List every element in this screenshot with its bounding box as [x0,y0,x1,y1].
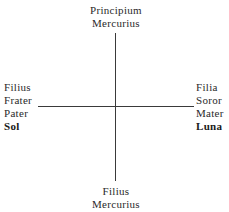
right-label: Filia Soror Mater Luna [196,81,224,133]
bottom-label: Filius Mercurius [72,185,160,211]
right-label-line-3: Mater [196,107,224,120]
top-label: Principium Mercurius [72,4,160,30]
vertical-axis-line [115,33,116,181]
bottom-label-line-2: Mercurius [72,198,160,211]
top-label-line-1: Principium [72,4,160,17]
left-label-line-4: Sol [4,120,32,133]
right-label-line-2: Soror [196,94,224,107]
left-label: Filius Frater Pater Sol [4,81,32,133]
left-label-line-3: Pater [4,107,32,120]
right-label-line-1: Filia [196,81,224,94]
right-label-line-4: Luna [196,120,224,133]
top-label-line-2: Mercurius [72,17,160,30]
horizontal-axis-line [38,106,194,107]
left-label-line-1: Filius [4,81,32,94]
bottom-label-line-1: Filius [72,185,160,198]
left-label-line-2: Frater [4,94,32,107]
